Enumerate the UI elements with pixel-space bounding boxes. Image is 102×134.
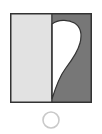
- figure-root: Square divided into two vertical halves …: [0, 0, 102, 134]
- outline-circle: [43, 112, 59, 128]
- left-panel: [11, 14, 52, 103]
- figure-canvas: [0, 0, 102, 134]
